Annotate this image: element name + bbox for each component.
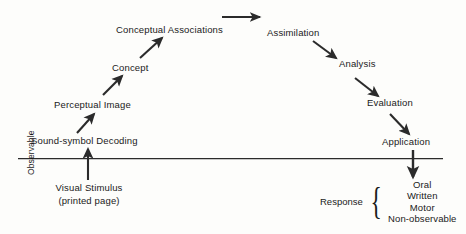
reading-process-diagram: Conceptual Associations Concept Perceptu… xyxy=(0,0,466,234)
response-group: Response { Oral Written Motor Non-observ… xyxy=(320,179,457,225)
arrow-perceptual-image-to-concept xyxy=(103,76,122,95)
arrow-concept-to-conceptual-associations xyxy=(140,38,162,58)
node-perceptual-image: Perceptual Image xyxy=(54,99,131,110)
arrow-evaluation-to-application xyxy=(390,114,409,134)
node-sound-symbol-decoding: Sound-symbol Decoding xyxy=(31,135,138,146)
node-visual-stimulus: Visual Stimulus xyxy=(55,182,122,193)
response-item-written: Written xyxy=(388,190,456,201)
node-visual-stimulus-subtitle: (printed page) xyxy=(58,195,119,206)
node-analysis: Analysis xyxy=(339,58,376,69)
response-item-motor: Motor xyxy=(388,202,456,213)
response-item-oral: Oral xyxy=(388,179,456,190)
axis-label-observable: Observable xyxy=(26,131,36,175)
response-item-non-observable: Non-observable xyxy=(388,213,456,224)
node-conceptual-associations: Conceptual Associations xyxy=(116,24,223,35)
node-evaluation: Evaluation xyxy=(367,97,413,108)
node-assimilation: Assimilation xyxy=(267,27,319,38)
node-application: Application xyxy=(382,136,430,147)
response-label: Response xyxy=(320,196,366,207)
response-items-list: Oral Written Motor Non-observable xyxy=(386,179,456,225)
response-brace-icon: { xyxy=(370,185,383,218)
arrow-analysis-to-evaluation xyxy=(355,78,378,96)
node-concept: Concept xyxy=(112,62,148,73)
arrow-assimilation-to-analysis xyxy=(313,41,336,58)
arrow-decoding-to-perceptual-image xyxy=(77,114,94,133)
